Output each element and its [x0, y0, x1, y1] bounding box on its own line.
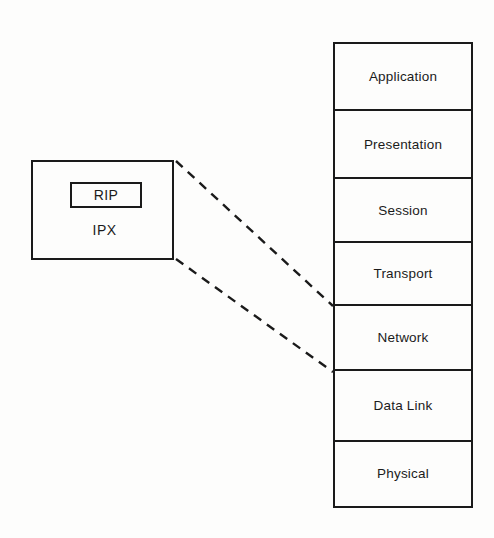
osi-layer-presentation: Presentation: [335, 111, 471, 178]
rip-label: RIP: [94, 187, 119, 203]
osi-layer-label: Data Link: [374, 398, 433, 413]
osi-layer-physical: Physical: [335, 442, 471, 506]
upper-dashed-connector: [176, 161, 333, 306]
lower-dashed-connector: [176, 259, 333, 372]
osi-stack: Application Presentation Session Transpo…: [333, 42, 473, 508]
ipx-label: IPX: [33, 222, 176, 238]
osi-layer-label: Presentation: [364, 137, 442, 152]
osi-layer-application: Application: [335, 44, 471, 111]
osi-layer-label: Transport: [373, 266, 432, 281]
rip-box: RIP: [70, 182, 142, 208]
diagram-canvas: RIP IPX Application Presentation Session…: [0, 0, 494, 538]
osi-layer-network: Network: [335, 306, 471, 371]
osi-layer-data-link: Data Link: [335, 371, 471, 441]
osi-layer-label: Network: [378, 330, 429, 345]
osi-layer-session: Session: [335, 179, 471, 243]
osi-layer-label: Session: [378, 203, 427, 218]
osi-layer-label: Physical: [377, 466, 429, 481]
protocol-box: RIP IPX: [31, 160, 174, 260]
osi-layer-label: Application: [369, 69, 437, 84]
osi-layer-transport: Transport: [335, 243, 471, 305]
